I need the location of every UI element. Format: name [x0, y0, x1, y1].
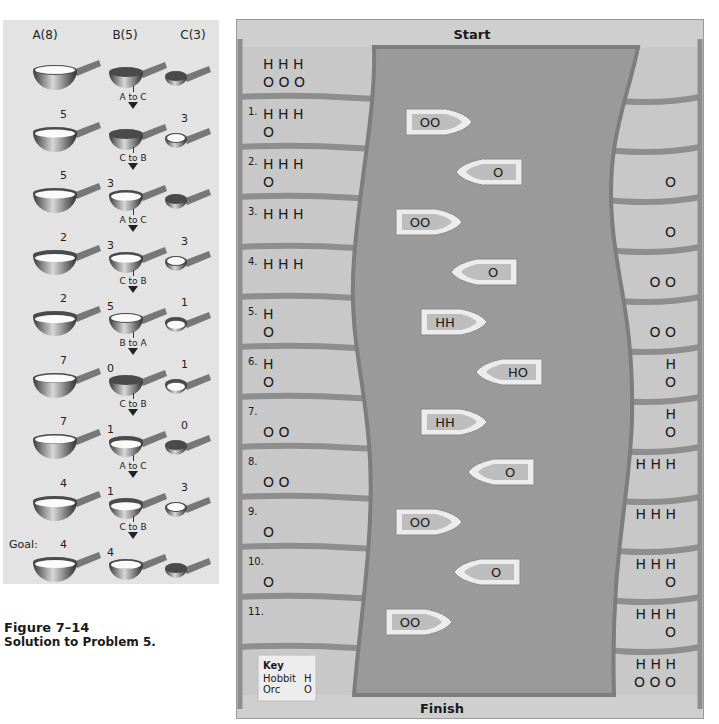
cup-c [163, 372, 213, 404]
cup-c [163, 187, 213, 219]
cup-b-amount: 3 [107, 239, 114, 252]
left-bank-hobbits: H H H [263, 156, 303, 172]
cup-c [163, 433, 213, 465]
pour-move-label: C to B [103, 399, 163, 409]
pour-arrow: A to C [103, 455, 163, 478]
cup-b-amount: 4 [107, 546, 114, 559]
left-bank-hobbits: H [263, 306, 274, 322]
cup-a-amount: 7 [60, 354, 67, 367]
key-orc-symbol: O [304, 684, 312, 695]
boat-passengers: OO [410, 215, 430, 230]
left-bank-hobbits: H [263, 356, 274, 372]
cup-c [163, 64, 213, 96]
boat-passengers: HO [508, 365, 528, 380]
cup-a [31, 120, 103, 162]
arrow-down-icon [128, 471, 138, 478]
figure-caption-text: Solution to Problem 5. [4, 635, 156, 649]
cup-c-amount: 1 [181, 296, 188, 309]
right-bank-orcs: O O [650, 324, 677, 340]
pour-arrow: B to A [103, 332, 163, 355]
step-number: 11. [248, 606, 264, 617]
cup-a [31, 304, 103, 346]
cup-a [31, 427, 103, 469]
right-bank-hobbits: H H H [636, 506, 676, 522]
pour-move-label: C to B [103, 276, 163, 286]
step-number: 3. [248, 206, 258, 217]
cup-c [163, 126, 213, 158]
arrow-down-icon [128, 286, 138, 293]
cup-state-row: 4 4 [3, 544, 219, 600]
boat-passengers: O [488, 265, 498, 280]
cup-c [163, 495, 213, 527]
figure-caption: Figure 7–14 Solution to Problem 5. [4, 620, 156, 649]
left-bank-hobbits: H H H [263, 256, 303, 272]
cup-c-amount: 1 [181, 358, 188, 371]
cup-a [31, 489, 103, 531]
right-bank-hobbits: H [665, 356, 676, 372]
cup-a [31, 243, 103, 285]
pour-move-label: C to B [103, 153, 163, 163]
right-bank-orcs: O [665, 224, 676, 240]
right-bank-hobbits: H [665, 406, 676, 422]
pour-move-label: B to A [103, 338, 163, 348]
arrow-down-icon [128, 409, 138, 416]
pour-move-label: A to C [103, 461, 163, 471]
right-bank-orcs: O [665, 374, 676, 390]
cup-c [163, 310, 213, 342]
arrow-down-icon [128, 348, 138, 355]
cup-a-amount: 5 [60, 169, 67, 182]
right-bank-hobbits: H H H [636, 606, 676, 622]
boat-passengers: OO [400, 615, 420, 630]
left-bank-orcs: O O [263, 474, 290, 490]
cup-a [31, 181, 103, 223]
cup-a-header: A(8) [15, 28, 75, 42]
cup-a [31, 550, 103, 592]
step-number: 1. [248, 106, 258, 117]
river-crossing-diagram: Start Finish H H HO O O1.H H HO2.H H HOO… [236, 19, 704, 719]
left-bank-orcs: O [263, 174, 274, 190]
left-bank-orcs: O [263, 124, 274, 140]
boat-passengers: OO [410, 515, 430, 530]
boat-passengers: O [505, 465, 515, 480]
goal-label: Goal: [9, 538, 38, 551]
cup-b-header: B(5) [95, 28, 155, 42]
step-number: 4. [248, 256, 258, 267]
cup-b-amount: 1 [107, 485, 114, 498]
arrow-down-icon [128, 225, 138, 232]
cup-a [31, 366, 103, 408]
cup-a-amount: 5 [60, 108, 67, 121]
arrow-down-icon [128, 532, 138, 539]
right-bank-orcs: O O [650, 274, 677, 290]
start-label: Start [454, 27, 491, 42]
left-bank-hobbits: H H H [263, 56, 303, 72]
left-bank-orcs: O [263, 374, 274, 390]
boat-passengers: O [491, 565, 501, 580]
boat-passengers: HH [435, 415, 455, 430]
cup-a [31, 58, 103, 100]
key-hobbit-symbol: H [304, 673, 312, 684]
left-bank-hobbits: H H H [263, 106, 303, 122]
pour-arrow: C to B [103, 516, 163, 539]
arrow-down-icon [128, 163, 138, 170]
left-bank-orcs: O [263, 574, 274, 590]
cup-c-amount: 3 [181, 481, 188, 494]
right-bank-hobbits: H H H [636, 456, 676, 472]
key-orc-label: Orc [263, 684, 280, 695]
cup-b-amount: 5 [107, 300, 114, 313]
cup-c-header: C(3) [163, 28, 223, 42]
cup-a-amount: 2 [60, 292, 67, 305]
figure-label: Figure 7–14 [4, 620, 156, 635]
right-bank-orcs: O [665, 574, 676, 590]
step-number: 8. [248, 456, 258, 467]
cup-a-amount: 2 [60, 231, 67, 244]
cup-c-amount: 0 [181, 419, 188, 432]
step-number: 10. [248, 556, 264, 567]
cup-b-amount: 0 [107, 362, 114, 375]
pour-move-label: A to C [103, 92, 163, 102]
cup-a-amount: 7 [60, 415, 67, 428]
right-bank-orcs: O O O [634, 674, 676, 690]
arrow-down-icon [128, 102, 138, 109]
left-bank-orcs: O O O [263, 74, 305, 90]
cup-a-amount: 4 [60, 477, 67, 490]
cup-a-amount: 4 [60, 538, 67, 551]
